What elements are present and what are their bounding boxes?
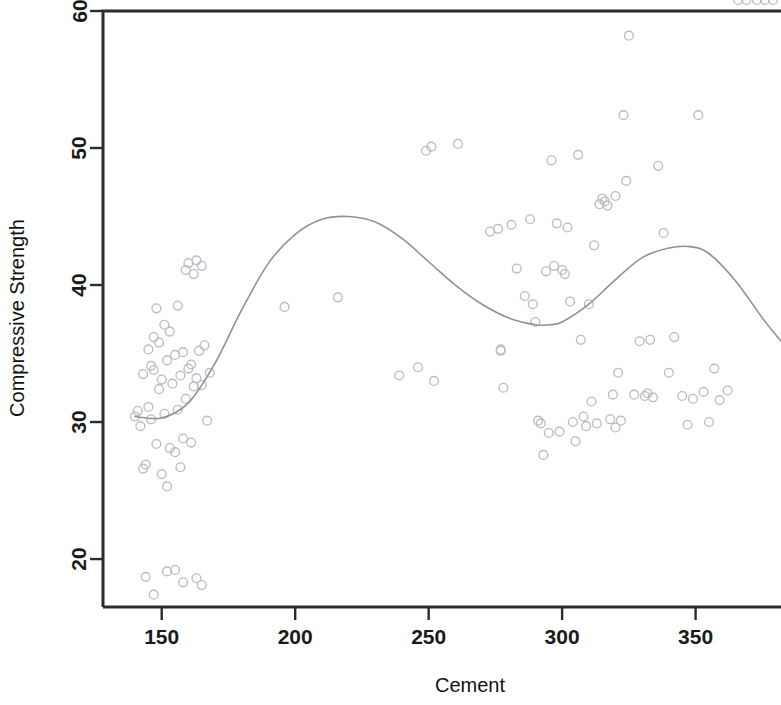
data-point (555, 427, 564, 436)
x-axis-title: Cement (435, 674, 505, 696)
data-point (670, 333, 679, 342)
data-point (163, 482, 172, 491)
x-axis: 150200250300350 (144, 607, 713, 648)
data-point (395, 371, 404, 380)
smooth-curve-layer (135, 216, 781, 418)
data-point (507, 220, 516, 229)
y-tick-label: 20 (68, 547, 91, 570)
data-point (454, 140, 463, 149)
data-point (144, 403, 153, 412)
data-point (157, 375, 166, 384)
data-point (678, 392, 687, 401)
data-point (136, 422, 145, 431)
data-point (694, 111, 703, 120)
data-point (630, 390, 639, 399)
data-point (590, 241, 599, 250)
data-point (149, 590, 158, 599)
x-tick-label: 250 (411, 625, 446, 648)
data-point (528, 300, 537, 309)
plot-frame (103, 11, 781, 607)
data-point (144, 345, 153, 354)
data-point (592, 419, 601, 428)
data-point (141, 572, 150, 581)
data-point (579, 412, 588, 421)
data-point (568, 418, 577, 427)
y-axis: 2030405060 (68, 0, 104, 571)
data-point (664, 368, 673, 377)
data-point (520, 292, 529, 301)
data-point (149, 333, 158, 342)
data-point (614, 368, 623, 377)
data-point (430, 377, 439, 386)
data-point (165, 327, 174, 336)
plot-frame-border (103, 11, 781, 607)
data-point (176, 371, 185, 380)
data-point (563, 223, 572, 232)
y-tick-label: 50 (68, 136, 91, 159)
data-point (659, 229, 668, 238)
data-point (168, 379, 177, 388)
data-point (723, 386, 732, 395)
data-point (163, 567, 172, 576)
data-point (173, 301, 182, 310)
y-tick-label: 40 (68, 273, 91, 296)
data-point (152, 440, 161, 449)
data-point (710, 364, 719, 373)
data-point (494, 224, 503, 233)
data-point (619, 111, 628, 120)
data-point (133, 407, 142, 416)
data-point (414, 363, 423, 372)
data-point (157, 470, 166, 479)
data-point (176, 463, 185, 472)
data-point (624, 31, 633, 40)
data-point (539, 451, 548, 460)
data-point (646, 335, 655, 344)
data-point (689, 394, 698, 403)
data-point (571, 437, 580, 446)
y-tick-label: 30 (68, 410, 91, 433)
data-point (526, 215, 535, 224)
data-points-layer (131, 0, 778, 599)
data-point (683, 420, 692, 429)
data-point (179, 348, 188, 357)
data-point (200, 341, 209, 350)
data-point (139, 370, 148, 379)
data-point (155, 385, 164, 394)
data-point (195, 346, 204, 355)
data-point (197, 261, 206, 270)
data-point (152, 304, 161, 313)
data-point (622, 176, 631, 185)
scatter-plot-figure: 2030405060 150200250300350 Cement Compre… (0, 0, 781, 705)
plot-canvas: 2030405060 150200250300350 Cement Compre… (0, 0, 781, 705)
x-tick-label: 150 (144, 625, 179, 648)
data-point (197, 581, 206, 590)
data-point (574, 150, 583, 159)
data-point (171, 566, 180, 575)
data-point (699, 387, 708, 396)
data-point (512, 264, 521, 273)
data-point (189, 382, 198, 391)
data-point (280, 303, 289, 312)
data-point (187, 438, 196, 447)
data-point (163, 356, 172, 365)
data-point (606, 415, 615, 424)
data-point (499, 383, 508, 392)
data-point (192, 256, 201, 265)
data-point (547, 156, 556, 165)
data-point (542, 267, 551, 276)
data-point (587, 397, 596, 406)
x-tick-label: 300 (545, 625, 580, 648)
data-point (203, 416, 212, 425)
data-point (544, 429, 553, 438)
data-point (705, 418, 714, 427)
x-tick-label: 350 (678, 625, 713, 648)
data-point (608, 390, 617, 399)
loess-smooth-curve (135, 216, 781, 418)
data-point (576, 335, 585, 344)
data-point (616, 416, 625, 425)
data-point (635, 337, 644, 346)
data-point (715, 396, 724, 405)
y-axis-title: Compressive Strength (6, 219, 28, 417)
data-point (566, 297, 575, 306)
data-point (552, 219, 561, 228)
